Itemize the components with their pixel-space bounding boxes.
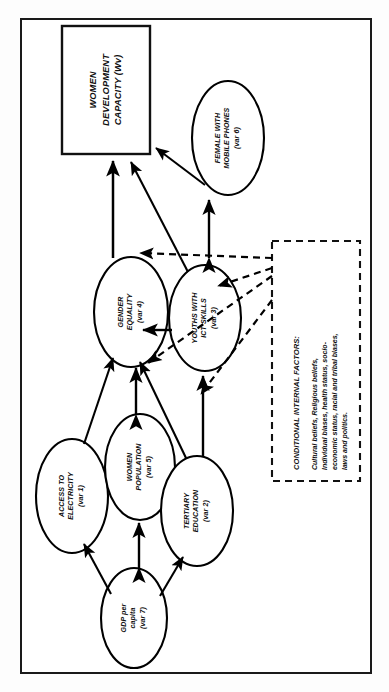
diagram-graphics bbox=[0, 0, 389, 692]
outcome-box-shape bbox=[62, 26, 150, 154]
node-shape-var6 bbox=[192, 81, 264, 195]
figure-canvas: WOMEN DEVELOPMENT CAPACITY (Wv) FEMALE W… bbox=[0, 0, 389, 692]
edge-var1-var4 bbox=[84, 358, 113, 444]
node-shape-var2 bbox=[161, 456, 233, 566]
edge-var7-var1 bbox=[84, 544, 111, 594]
node-shape-var4 bbox=[94, 257, 168, 367]
node-shape-var1 bbox=[36, 439, 108, 553]
edge-factors-var4 bbox=[140, 253, 272, 258]
node-shape-var3 bbox=[169, 265, 241, 371]
node-shape-var7 bbox=[101, 568, 167, 668]
edge-var7-var2 bbox=[160, 557, 183, 596]
factors-box-shape bbox=[272, 241, 360, 481]
edge-var3-outcome bbox=[131, 162, 188, 272]
